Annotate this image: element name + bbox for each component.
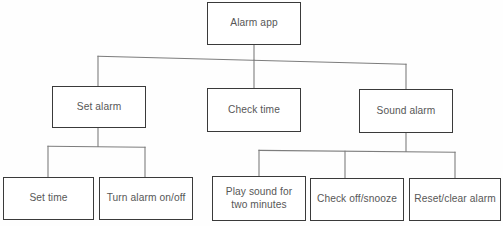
node-play-sound-for-two-minutes[interactable]: Play sound for two minutes [212,176,306,221]
node-turn-alarm-on-off[interactable]: Turn alarm on/off [99,177,193,220]
node-check-time[interactable]: Check time [207,88,301,132]
node-sound-alarm[interactable]: Sound alarm [359,89,453,133]
node-label: Check time [212,104,296,116]
node-label: Reset/clear alarm [414,193,496,205]
node-alarm-app[interactable]: Alarm app [207,2,301,45]
node-label: Check off/snooze [315,193,399,205]
node-check-off-snooze[interactable]: Check off/snooze [310,178,404,221]
edge-sound-alarm-bus [259,150,455,152]
edge-level1-bus [98,56,406,64]
node-label: Sound alarm [364,105,448,117]
node-set-alarm[interactable]: Set alarm [52,86,146,128]
node-label: Turn alarm on/off [104,192,188,204]
edge-set-alarm-bus [48,146,145,147]
node-label: Set time [8,192,89,204]
diagram-canvas: Alarm app Set alarm Check time Sound ala… [0,0,503,226]
node-label: Set alarm [57,101,141,113]
node-set-time[interactable]: Set time [3,177,94,220]
node-label: Alarm app [212,17,296,29]
node-reset-clear-alarm[interactable]: Reset/clear alarm [409,178,501,221]
node-label: Play sound for two minutes [217,186,301,211]
